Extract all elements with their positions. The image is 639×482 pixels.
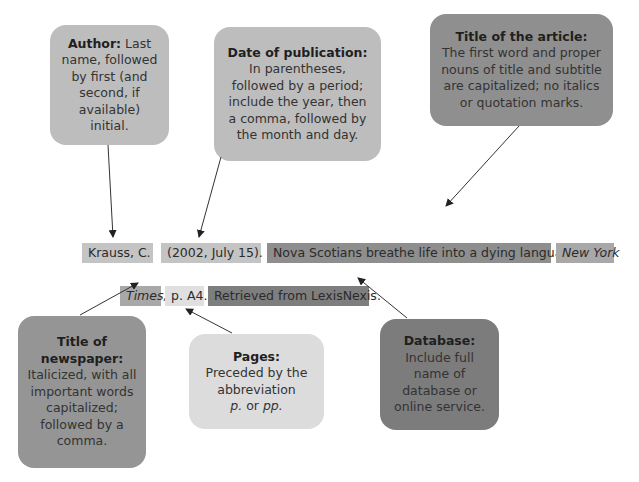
article-title-callout: Title of the article: The first word and… (430, 14, 613, 126)
citation-newspaper-part1: New York (556, 243, 614, 263)
database-callout: Database: Include full name of database … (380, 319, 499, 430)
author-callout: Author: Last name, followed by first (an… (50, 25, 169, 145)
pages-callout: Pages: Preceded by the abbreviation p. o… (189, 334, 324, 429)
database-description: Include full name of database or online … (388, 350, 491, 416)
database-heading: Database: (404, 333, 476, 350)
date-arrow (199, 157, 221, 237)
pages-arrow (186, 309, 232, 333)
citation-newspaper-part2: Times, (120, 286, 161, 306)
citation-pages: p. A4. (165, 286, 204, 306)
newspaper-callout: Title of newspaper: Italicized, with all… (18, 316, 146, 468)
article-title-heading: Title of the article: (455, 29, 587, 46)
citation-retrieval: Retrieved from LexisNexis. (208, 286, 369, 306)
pages-or: or (246, 398, 259, 413)
citation-author: Krauss, C. (82, 243, 153, 263)
article-title-arrow (446, 126, 519, 206)
pages-description: Preceded by the abbreviation p. or pp. (197, 365, 316, 415)
author-heading: Author: (68, 36, 121, 51)
pages-abbr-pp: pp. (263, 398, 283, 413)
pages-abbr-p: p. (230, 398, 242, 413)
date-callout: Date of publication: In parentheses, fol… (214, 27, 381, 161)
date-description: In parentheses, followed by a period; in… (224, 61, 371, 144)
pages-heading: Pages: (233, 349, 280, 366)
citation-date: (2002, July 15). (161, 243, 261, 263)
date-heading: Date of publication: (228, 45, 368, 62)
author-arrow (108, 145, 113, 237)
citation-article-title: Nova Scotians breathe life into a dying … (267, 243, 551, 263)
newspaper-description: Italicized, with all important words cap… (26, 367, 138, 450)
article-title-description: The first word and proper nouns of title… (440, 45, 603, 111)
pages-text: Preceded by the abbreviation (206, 365, 308, 397)
newspaper-heading: Title of newspaper: (26, 334, 138, 367)
